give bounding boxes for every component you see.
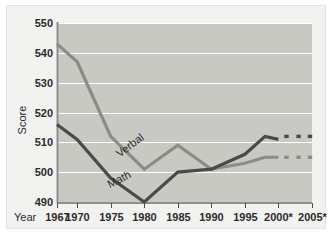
x-axis-title: Year xyxy=(14,211,37,223)
x-tick-label: 1985 xyxy=(166,211,190,223)
y-tick-label: 490 xyxy=(35,196,53,208)
y-tick-label: 520 xyxy=(35,107,53,119)
y-tick-label: 550 xyxy=(35,17,53,29)
projected-dash-verbal xyxy=(296,156,300,159)
x-tick-label: 1990 xyxy=(199,211,223,223)
y-axis-title: Score xyxy=(16,106,28,135)
projected-dash-math xyxy=(296,135,300,138)
x-tick-label: 1970 xyxy=(65,211,89,223)
y-tick-label: 510 xyxy=(35,136,53,148)
chart-figure: 490500510520530540550 196719701975198019… xyxy=(0,0,334,236)
y-tick-label: 500 xyxy=(35,166,53,178)
x-tick-label: 1995 xyxy=(233,211,257,223)
x-tick-label: 2005* xyxy=(298,211,327,223)
y-axis-tick-labels: 490500510520530540550 xyxy=(35,17,53,208)
x-axis-ticks xyxy=(58,203,313,208)
projected-dash-math xyxy=(284,135,288,138)
x-tick-label: 1980 xyxy=(132,211,156,223)
y-tick-label: 540 xyxy=(35,47,53,59)
plot-area-background xyxy=(57,23,312,202)
line-chart: 490500510520530540550 196719701975198019… xyxy=(0,0,334,236)
y-tick-label: 530 xyxy=(35,77,53,89)
x-axis-tick-labels: 19671970197519801985199019952000*2005* xyxy=(45,211,327,223)
x-tick-label: 1975 xyxy=(99,211,123,223)
projected-dash-verbal xyxy=(308,156,312,159)
projected-dash-math xyxy=(308,135,312,138)
projected-dash-verbal xyxy=(284,156,288,159)
x-tick-label: 2000* xyxy=(264,211,293,223)
